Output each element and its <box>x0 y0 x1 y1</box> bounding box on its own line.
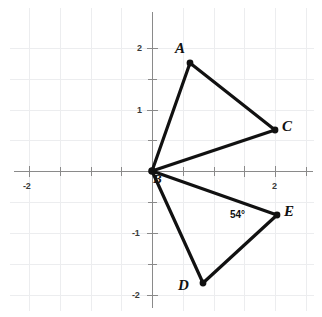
grid-lines <box>10 8 314 311</box>
plot-canvas <box>0 0 322 317</box>
point-c-dot <box>272 127 279 134</box>
coordinate-plane-figure: -2 2 2 1 -1 -2 A B C D E 54° <box>0 0 322 317</box>
point-b-dot <box>148 167 156 175</box>
point-a-dot <box>187 60 194 67</box>
point-e-dot <box>274 212 281 219</box>
point-d-dot <box>200 280 207 287</box>
axes <box>14 12 313 308</box>
